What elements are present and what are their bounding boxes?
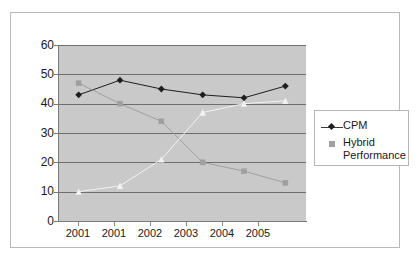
gridline-50 xyxy=(58,74,306,75)
x-tick-mark xyxy=(186,222,187,226)
x-tick-mark xyxy=(150,222,151,226)
y-tick-label: 50 xyxy=(20,68,54,80)
y-tick-label: 20 xyxy=(20,156,54,168)
x-tick-mark xyxy=(258,222,259,226)
plot-area xyxy=(58,45,306,221)
legend-label: CPM xyxy=(343,117,367,134)
chart-container: 60 50 40 30 20 10 0 xyxy=(0,0,418,265)
y-axis-labels: 60 50 40 30 20 10 0 xyxy=(11,45,54,222)
square-marker-icon xyxy=(321,134,343,151)
legend-item-cpm: CPM xyxy=(321,116,367,133)
x-axis-labels: 2001 2001 2002 2003 2004 2005 xyxy=(58,227,307,247)
y-tick-label: 10 xyxy=(20,185,54,197)
x-tick-mark xyxy=(222,222,223,226)
gridline-10 xyxy=(58,192,306,193)
y-axis-line xyxy=(58,45,59,222)
gridline-20 xyxy=(58,162,306,163)
y-tick-label: 60 xyxy=(20,39,54,51)
y-tick-label: 30 xyxy=(20,127,54,139)
x-tick-mark xyxy=(78,222,79,226)
chart-frame: 60 50 40 30 20 10 0 xyxy=(10,12,400,248)
gridline-60 xyxy=(58,45,306,46)
legend-label-wrapped: Performance xyxy=(343,147,406,164)
x-axis-line xyxy=(58,221,307,222)
x-tick-mark xyxy=(114,222,115,226)
y-tick-label: 40 xyxy=(20,97,54,109)
gridline-30 xyxy=(58,133,306,134)
diamond-marker-icon xyxy=(321,117,343,134)
chart-legend: CPM Hybrid Performance xyxy=(314,110,409,166)
gridline-40 xyxy=(58,104,306,105)
y-tick-label: 0 xyxy=(20,215,54,227)
x-tick-label: 2005 xyxy=(236,227,280,240)
